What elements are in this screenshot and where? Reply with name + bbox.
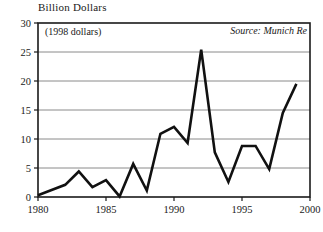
y-tick-label: 0 — [26, 192, 31, 203]
chart-axis-title: Billion Dollars — [38, 1, 107, 13]
y-tick-label: 25 — [21, 47, 32, 58]
y-tick-label: 10 — [21, 134, 32, 145]
x-tick-label: 1995 — [232, 204, 253, 215]
data-line — [38, 50, 296, 197]
y-tick-label: 20 — [21, 76, 32, 87]
gridlines — [38, 52, 310, 168]
chart-source-note: Source: Munich Re — [230, 25, 307, 36]
series-line — [38, 50, 296, 197]
x-tick-label: 1990 — [164, 204, 185, 215]
x-tick-label: 1985 — [96, 204, 117, 215]
y-tick-label: 15 — [21, 105, 32, 116]
x-tick-labels: 19801985199019952000 — [28, 204, 321, 215]
x-tick-label: 2000 — [300, 204, 321, 215]
chart-units-note: (1998 dollars) — [45, 26, 101, 37]
y-tick-label: 5 — [26, 163, 31, 174]
chart-figure: Billion Dollars (1998 dollars) Source: M… — [0, 0, 323, 232]
y-tick-label: 30 — [21, 18, 32, 29]
x-tick-label: 1980 — [28, 204, 49, 215]
y-tick-labels: 051015202530 — [21, 18, 32, 203]
